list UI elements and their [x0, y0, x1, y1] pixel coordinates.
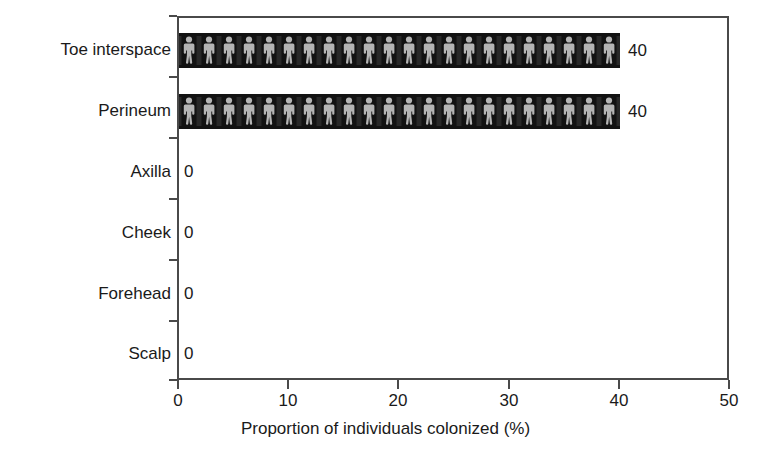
y-axis-tick — [169, 76, 177, 78]
bar-chart: Toe interspace 40 Perineum 40 Axilla 0 C… — [0, 0, 771, 461]
x-axis-title: Proportion of individuals colonized (%) — [0, 420, 771, 437]
x-axis-tick-label: 40 — [610, 392, 629, 409]
x-axis-tick-label: 0 — [173, 392, 182, 409]
y-axis-tick — [169, 379, 177, 381]
bar-value-label: 40 — [628, 42, 647, 59]
category-label: Axilla — [130, 163, 171, 180]
x-axis-tick — [508, 380, 510, 389]
x-axis-tick-label: 50 — [720, 392, 739, 409]
bar-value-label: 0 — [184, 345, 193, 362]
plot-frame — [177, 16, 729, 380]
y-axis-tick — [169, 320, 177, 322]
x-axis-tick — [287, 380, 289, 389]
x-axis-tick — [177, 380, 179, 389]
bar-value-label: 0 — [184, 285, 193, 302]
y-axis-tick — [169, 259, 177, 261]
y-axis-tick — [169, 137, 177, 139]
category-label: Scalp — [128, 345, 171, 362]
x-axis-tick-label: 20 — [389, 392, 408, 409]
x-axis-tick — [728, 380, 730, 389]
bar-toe-interspace — [179, 33, 620, 68]
y-axis-tick — [169, 198, 177, 200]
bar-perineum — [179, 94, 620, 129]
category-label: Toe interspace — [60, 41, 171, 58]
x-axis-tick — [397, 380, 399, 389]
category-label: Forehead — [98, 285, 171, 302]
x-axis-tick — [618, 380, 620, 389]
y-axis-tick — [169, 15, 177, 17]
bar-value-label: 0 — [184, 224, 193, 241]
bar-value-label: 40 — [628, 103, 647, 120]
x-axis-tick-label: 10 — [279, 392, 298, 409]
category-label: Cheek — [122, 224, 171, 241]
bar-value-label: 0 — [184, 163, 193, 180]
x-axis-tick-label: 30 — [500, 392, 519, 409]
category-label: Perineum — [98, 102, 171, 119]
